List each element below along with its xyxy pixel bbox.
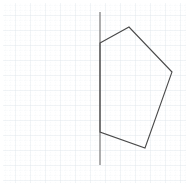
figure-canvas [0, 0, 193, 193]
grid-background [3, 3, 186, 183]
geometry-figure-svg [0, 0, 193, 193]
grid-layer [3, 3, 186, 183]
